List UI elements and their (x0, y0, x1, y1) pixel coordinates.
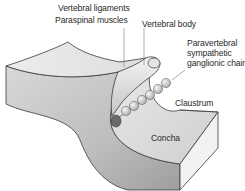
label-concha: Concha (151, 133, 180, 143)
anatomy-diagram: Vertebral ligaments Paraspinal muscles V… (0, 0, 245, 191)
label-paravertebral-chain: Paravertebral sympathetic ganglionic cha… (187, 38, 245, 68)
ganglion-bead (129, 101, 138, 110)
leader-ganglionic-chain (172, 70, 185, 80)
ganglion-chain-end (111, 115, 121, 127)
diagram-illustration (0, 0, 245, 191)
ganglion-bead (153, 84, 162, 93)
label-vertebral-ligaments: Vertebral ligaments (58, 3, 130, 13)
ganglion-bead (137, 95, 146, 104)
label-claustrum: Claustrum (175, 98, 213, 108)
rod-end-cap (148, 58, 160, 68)
ganglion-bead (121, 106, 130, 115)
label-vertebral-body: Vertebral body (142, 19, 196, 29)
ganglion-bead (145, 90, 154, 99)
ganglion-bead (161, 78, 170, 87)
label-paraspinal-muscles: Paraspinal muscles (55, 15, 128, 25)
